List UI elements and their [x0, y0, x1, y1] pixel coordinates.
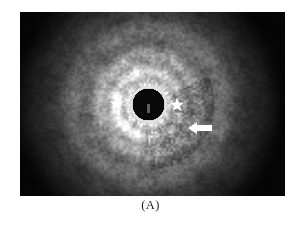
- ultrasound-canvas: [20, 12, 285, 196]
- figure-panel: (A): [0, 0, 301, 225]
- ultrasound-image: [20, 12, 285, 196]
- figure-caption: (A): [0, 198, 301, 213]
